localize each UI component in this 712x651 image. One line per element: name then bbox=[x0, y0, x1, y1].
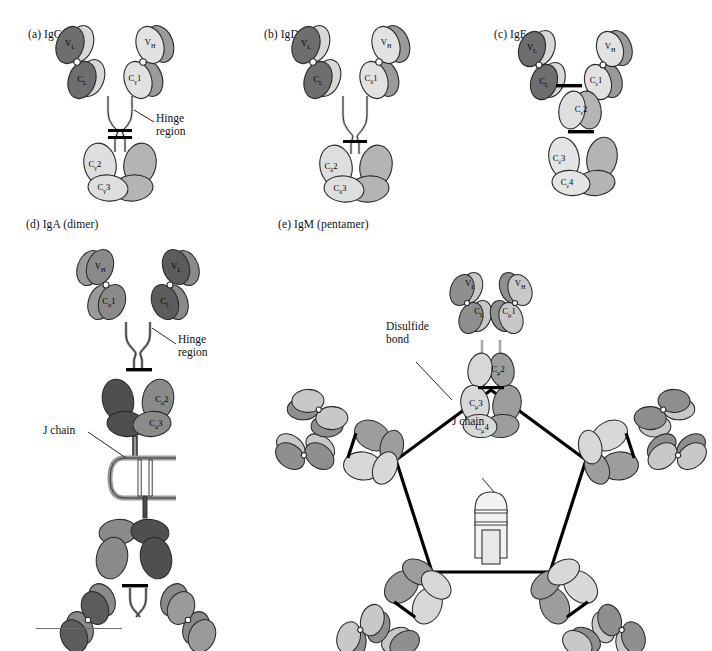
panel-ige: VL CL VH Cε1 Cε2 Cε3 Cε4 bbox=[460, 0, 712, 215]
panel-igg: VL CL VH Cγ1 Cγ2 Cγ3 bbox=[0, 0, 240, 210]
panel-iga: VH Cα1 VL CL Cα2 Cα3 bbox=[0, 210, 280, 650]
hinge-line1: Hinge bbox=[156, 112, 185, 125]
caption-rule bbox=[36, 628, 122, 629]
hinge-line2: region bbox=[178, 346, 207, 359]
annotation-disulfide-bond-igm: Disulfide bond bbox=[386, 320, 429, 346]
disulfide-line2: bond bbox=[386, 333, 429, 346]
hinge-line2: region bbox=[156, 125, 185, 138]
panel-igm: VL CL VH Cμ1 Cμ2 Cμ3 Cμ4 bbox=[270, 210, 712, 630]
igm-monomer-left-lower bbox=[323, 541, 472, 651]
panel-igd: VL CL VH Cδ1 Cδ2 Cδ3 bbox=[240, 0, 470, 210]
annotation-hinge-region-igg: Hinge region bbox=[156, 112, 185, 138]
igm-monomer-right-upper bbox=[567, 379, 712, 505]
annotation-j-chain-iga: J chain bbox=[43, 424, 75, 437]
annotation-j-chain-igm: J chain bbox=[452, 415, 484, 428]
hinge-line1: Hinge bbox=[178, 333, 207, 346]
igm-monomer-right-lower bbox=[510, 541, 659, 651]
igm-monomer-left-upper bbox=[265, 379, 415, 505]
j-chain-shape bbox=[475, 492, 507, 564]
disulfide-line1: Disulfide bbox=[386, 320, 429, 333]
annotation-hinge-region-iga: Hinge region bbox=[178, 333, 207, 359]
